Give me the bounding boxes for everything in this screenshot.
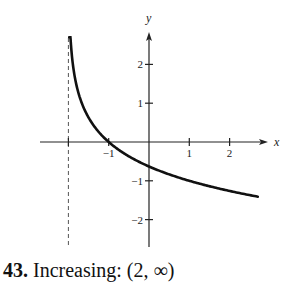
exercise-answer: Increasing: (2, ∞) [33, 259, 174, 281]
y-axis-label: y [145, 11, 152, 25]
y-tick-label: −1 [131, 175, 143, 187]
x-tick-label: 2 [227, 147, 233, 159]
x-axis-label: x [273, 135, 280, 149]
y-tick-label: 1 [138, 97, 144, 109]
y-tick-label: 2 [138, 58, 144, 70]
curve-path [69, 37, 258, 196]
function-graph: xy −112−2−112 [0, 0, 300, 260]
axes: xy [40, 11, 280, 247]
x-tick-label: −1 [103, 147, 115, 159]
exercise-number: 43. [3, 259, 28, 281]
exercise-caption: 43. Increasing: (2, ∞) [3, 259, 174, 282]
y-tick-label: −2 [131, 214, 143, 226]
function-curve [69, 37, 258, 196]
x-tick-label: 1 [187, 147, 193, 159]
